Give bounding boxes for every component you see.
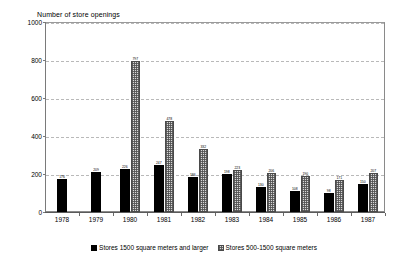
bar-value-label: 223 — [234, 166, 240, 170]
bar-1978-series-1: 176 — [57, 179, 67, 212]
legend-item-series-2: Stores 500-1500 square meters — [218, 244, 317, 251]
x-axis-labels: 1978197919801981198219831984198519861987 — [45, 216, 385, 228]
legend-item-series-1: Stores 1500 square meters and larger — [91, 244, 208, 251]
bar-group: 150207 — [351, 22, 385, 212]
bar-group: 247478 — [147, 22, 181, 212]
bar-1979-series-1: 209 — [91, 172, 101, 212]
bar-1980-series-1: 226 — [120, 169, 130, 212]
bar-value-label: 176 — [59, 175, 65, 179]
bar-1981-series-1: 247 — [154, 165, 164, 212]
bar-group: 198223 — [215, 22, 249, 212]
bar-value-label: 226 — [122, 165, 128, 169]
bar-value-label: 98 — [327, 189, 331, 193]
y-tick-label: 200 — [2, 171, 42, 178]
bar-group: 130206 — [249, 22, 283, 212]
bar-1987-series-1: 150 — [358, 184, 368, 213]
x-tick-label: 1985 — [293, 216, 307, 223]
bar-value-label: 171 — [336, 176, 342, 180]
bar-value-label: 190 — [302, 172, 308, 176]
bar-value-label: 186 — [190, 173, 196, 177]
bar-value-label: 150 — [360, 180, 366, 184]
bar-value-label: 478 — [166, 117, 172, 121]
y-tick-label: 800 — [2, 57, 42, 64]
x-tick-label: 1982 — [191, 216, 205, 223]
bar-group: 186332 — [181, 22, 215, 212]
bar-value-label: 332 — [200, 145, 206, 149]
bar-group: 98171 — [317, 22, 351, 212]
bar-group: 108190 — [283, 22, 317, 212]
x-tick-label: 1980 — [123, 216, 137, 223]
x-tick-label: 1983 — [225, 216, 239, 223]
bar-1982-series-1: 186 — [188, 177, 198, 212]
bar-chart: Number of store openings 020040060080010… — [0, 0, 408, 270]
bars-layer: 1762092267972474781863321982231302061081… — [45, 22, 385, 212]
bar-value-label: 797 — [132, 57, 138, 61]
bar-1987-series-2: 207 — [369, 173, 379, 212]
bar-value-label: 130 — [258, 183, 264, 187]
bar-1981-series-2: 478 — [165, 121, 175, 212]
bar-1983-series-1: 198 — [222, 174, 232, 212]
bar-value-label: 207 — [370, 169, 376, 173]
bar-value-label: 209 — [93, 168, 99, 172]
bar-value-label: 198 — [224, 170, 230, 174]
bar-value-label: 247 — [156, 161, 162, 165]
x-tick-label: 1979 — [89, 216, 103, 223]
legend-label-series-1: Stores 1500 square meters and larger — [99, 244, 208, 251]
x-tick-label: 1987 — [361, 216, 375, 223]
y-tick-label: 1000 — [2, 19, 42, 26]
bar-1984-series-1: 130 — [256, 187, 266, 212]
y-tick-label: 0 — [2, 209, 42, 216]
bar-1984-series-2: 206 — [267, 173, 277, 212]
bar-value-label: 206 — [268, 169, 274, 173]
bar-1985-series-1: 108 — [290, 191, 300, 212]
bar-value-label: 108 — [292, 187, 298, 191]
solid-black-swatch-icon — [91, 245, 97, 251]
y-tick-label: 400 — [2, 133, 42, 140]
x-tick-label: 1981 — [157, 216, 171, 223]
bar-1983-series-2: 223 — [233, 170, 243, 212]
chart-legend: Stores 1500 square meters and larger Sto… — [0, 244, 408, 251]
y-tick-label: 600 — [2, 95, 42, 102]
dotted-grey-swatch-icon — [218, 245, 224, 251]
legend-label-series-2: Stores 500-1500 square meters — [226, 244, 317, 251]
chart-title: Number of store openings — [37, 11, 120, 18]
bar-group: 209 — [79, 22, 113, 212]
x-tick-mark — [385, 213, 386, 216]
x-tick-label: 1984 — [259, 216, 273, 223]
bar-group: 176 — [45, 22, 79, 212]
bar-group: 226797 — [113, 22, 147, 212]
x-tick-label: 1986 — [327, 216, 341, 223]
x-axis — [45, 212, 385, 213]
bar-1985-series-2: 190 — [301, 176, 311, 212]
bar-1986-series-2: 171 — [335, 180, 345, 212]
bar-1986-series-1: 98 — [324, 193, 334, 212]
bar-1980-series-2: 797 — [131, 61, 141, 212]
bar-1982-series-2: 332 — [199, 149, 209, 212]
x-tick-label: 1978 — [55, 216, 69, 223]
